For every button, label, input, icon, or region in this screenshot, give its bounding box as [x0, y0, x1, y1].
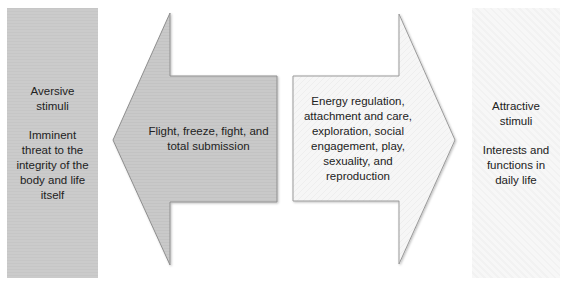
attractive-desc-line2: functions in	[483, 158, 549, 173]
right-arrow-line6: reproduction	[304, 169, 412, 184]
right-arrow-line4: engagement, play,	[304, 139, 412, 154]
attractive-title-line2: stimuli	[483, 114, 549, 129]
attractive-stimuli-panel: Attractive stimuli Interests and functio…	[472, 8, 560, 278]
left-arrow-line2: total submission	[148, 139, 268, 154]
right-arrow-label: Energy regulation, attachment and care, …	[293, 76, 423, 201]
left-arrow-label: Flight, freeze, fight, and total submiss…	[140, 76, 277, 202]
right-arrow-line1: Energy regulation,	[304, 94, 412, 109]
right-arrow-line5: sexuality, and	[304, 154, 412, 169]
attractive-stimuli-text: Attractive stimuli Interests and functio…	[479, 99, 553, 188]
right-arrow-line3: exploration, social	[304, 124, 412, 139]
right-arrow-line2: attachment and care,	[304, 109, 412, 124]
attractive-title-line1: Attractive	[483, 99, 549, 114]
attractive-desc-line3: daily life	[483, 173, 549, 188]
left-arrow-line1: Flight, freeze, fight, and	[148, 124, 268, 139]
attractive-desc-line1: Interests and	[483, 143, 549, 158]
